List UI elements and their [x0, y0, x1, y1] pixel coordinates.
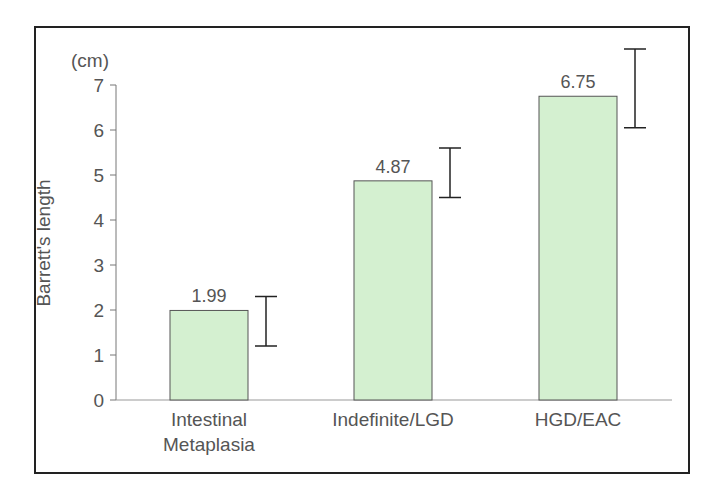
x-category-label: Metaplasia: [163, 434, 255, 455]
y-tick-label: 0: [93, 390, 104, 411]
y-tick-label: 7: [93, 75, 104, 96]
y-tick-label: 3: [93, 255, 104, 276]
bars: 1.99IntestinalMetaplasia4.87Indefinite/L…: [163, 49, 646, 455]
y-tick-label: 4: [93, 210, 104, 231]
x-category-label: Indefinite/LGD: [332, 409, 453, 430]
bar: [354, 181, 432, 400]
bar-value-label: 4.87: [375, 157, 410, 177]
bar: [539, 96, 617, 400]
y-tick-label: 5: [93, 165, 104, 186]
bar-group: 6.75HGD/EAC: [535, 49, 646, 430]
bar-group: 1.99IntestinalMetaplasia: [163, 286, 277, 455]
bar-group: 4.87Indefinite/LGD: [332, 148, 461, 430]
y-tick-label: 2: [93, 300, 104, 321]
y-axis-title: Barrett's length: [33, 179, 54, 306]
bar-value-label: 1.99: [191, 286, 226, 306]
y-tick-label: 1: [93, 345, 104, 366]
y-unit-label: (cm): [71, 50, 109, 71]
x-category-label: Intestinal: [171, 409, 247, 430]
y-ticks: 01234567: [93, 75, 116, 411]
bar-chart: 01234567 (cm) Barrett's length 1.99Intes…: [0, 0, 715, 502]
y-tick-label: 6: [93, 120, 104, 141]
bar: [170, 310, 248, 400]
x-category-label: HGD/EAC: [535, 409, 622, 430]
bar-value-label: 6.75: [560, 72, 595, 92]
